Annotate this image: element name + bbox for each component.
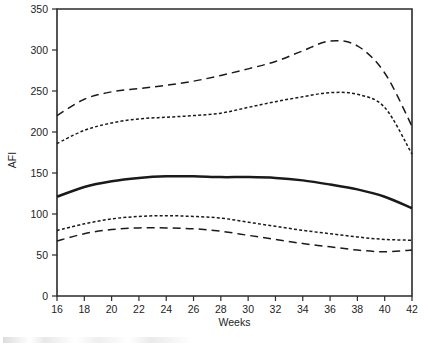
y-tick-label: 300 [30, 44, 48, 56]
chart-background [0, 0, 424, 350]
x-tick-label: 30 [242, 303, 254, 315]
y-tick-label: 100 [30, 208, 48, 220]
x-tick-label: 22 [133, 303, 145, 315]
x-tick-label: 42 [406, 303, 418, 315]
y-tick-label: 50 [36, 249, 48, 261]
x-tick-label: 32 [270, 303, 282, 315]
x-tick-label: 36 [324, 303, 336, 315]
y-tick-label: 350 [30, 3, 48, 15]
y-tick-label: 200 [30, 126, 48, 138]
x-axis-title: Weeks [219, 316, 251, 328]
x-tick-label: 24 [160, 303, 172, 315]
x-tick-label: 16 [51, 303, 63, 315]
afi-percentile-line-chart: 050100150200250300350 161820222426283032… [0, 0, 424, 350]
x-tick-label: 34 [297, 303, 309, 315]
x-tick-label: 26 [188, 303, 200, 315]
y-tick-label: 150 [30, 167, 48, 179]
x-tick-label: 18 [78, 303, 90, 315]
y-axis-title: AFI [6, 152, 18, 168]
x-tick-label: 20 [106, 303, 118, 315]
chart-container: 050100150200250300350 161820222426283032… [0, 0, 424, 350]
x-tick-label: 38 [352, 303, 364, 315]
y-tick-label: 0 [42, 290, 48, 302]
x-tick-label: 28 [215, 303, 227, 315]
x-tick-label: 40 [379, 303, 391, 315]
y-tick-label: 250 [30, 85, 48, 97]
